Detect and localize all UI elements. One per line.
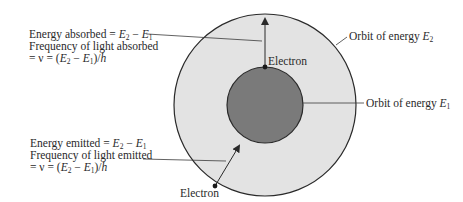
orbit-e1-label: Orbit of energy E1 xyxy=(366,97,451,111)
orbit-e2-label: Orbit of energy E2 xyxy=(349,30,434,44)
inner-orbit-e1 xyxy=(227,67,303,143)
absorbed-formula-label: = ν = (E2 − E1)/h xyxy=(29,52,106,66)
bohr-diagram: Energy absorbed = E2 − E1 Frequency of l… xyxy=(0,0,463,202)
orbit-e2-leader-line xyxy=(336,37,347,45)
emitted-formula-label: = ν = (E2 − E1)/h xyxy=(30,161,107,175)
electron-dot-top xyxy=(263,65,268,70)
electron-label-bottom: Electron xyxy=(180,187,219,199)
electron-label-top: Electron xyxy=(268,55,307,67)
